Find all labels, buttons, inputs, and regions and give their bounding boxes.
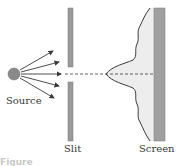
slit-barrier-bottom (68, 82, 73, 141)
screen (154, 8, 165, 141)
source-icon (8, 68, 20, 80)
source-label: Source (6, 95, 42, 106)
figure-caption: Figure (0, 157, 33, 166)
intensity-pattern (106, 8, 154, 141)
diffraction-diagram: Source Slit Screen Figure (0, 0, 177, 166)
slit-barrier-top (68, 8, 73, 67)
ray-arrows (20, 51, 61, 98)
slit-label: Slit (64, 143, 81, 154)
screen-label: Screen (139, 143, 175, 154)
